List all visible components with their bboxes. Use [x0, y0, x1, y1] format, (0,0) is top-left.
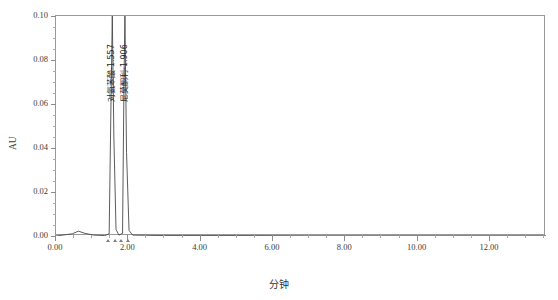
x-tick-label: 4.00 [180, 243, 220, 252]
y-tick-minor [53, 93, 56, 94]
x-tick-label: 6.00 [252, 243, 292, 252]
x-tick-major [489, 235, 490, 241]
x-tick-minor [182, 235, 183, 238]
chromatogram-trace [56, 16, 546, 236]
y-tick-minor [53, 71, 56, 72]
x-tick-minor [254, 235, 255, 238]
x-tick-minor [471, 235, 472, 238]
y-tick-minor [53, 27, 56, 28]
x-tick-label: 8.00 [324, 243, 364, 252]
x-tick-label: 2.00 [107, 243, 147, 252]
x-tick-major [200, 235, 201, 241]
y-tick-label: 0.00 [2, 231, 48, 240]
x-tick-minor [109, 235, 110, 238]
x-tick-major [272, 235, 273, 241]
y-tick-major [51, 104, 56, 105]
integration-marker [106, 239, 110, 242]
y-tick-major [51, 60, 56, 61]
peak-label: 尼莫酮利-1.906 [121, 44, 129, 102]
y-tick-label: 0.06 [2, 99, 48, 108]
y-tick-minor [53, 159, 56, 160]
x-tick-label: 12.00 [469, 243, 509, 252]
x-tick-minor [326, 235, 327, 238]
x-axis-title: 分钟 [0, 276, 558, 291]
x-tick-minor [362, 235, 363, 238]
y-tick-minor [53, 214, 56, 215]
peak-label: 对氨苯酸-1.557 [108, 44, 116, 102]
x-tick-minor [290, 235, 291, 238]
y-tick-minor [53, 170, 56, 171]
x-tick-major [344, 235, 345, 241]
y-tick-major [51, 16, 56, 17]
x-tick-minor [218, 235, 219, 238]
integration-marker [126, 239, 130, 242]
y-axis-title: AU [8, 136, 18, 150]
x-tick-label: 10.00 [397, 243, 437, 252]
x-tick-minor [435, 235, 436, 238]
x-axis-tick-labels: 0.002.004.006.008.0010.0012.00 [0, 243, 558, 257]
x-tick-major [55, 235, 56, 241]
x-tick-label: 0.00 [35, 243, 75, 252]
x-tick-minor [380, 235, 381, 238]
x-tick-minor [507, 235, 508, 238]
y-tick-major [51, 192, 56, 193]
x-tick-minor [163, 235, 164, 238]
y-tick-minor [53, 49, 56, 50]
y-tick-minor [53, 82, 56, 83]
y-tick-minor [53, 115, 56, 116]
integration-marker [113, 239, 117, 242]
x-tick-minor [91, 235, 92, 238]
y-tick-label: 0.02 [2, 187, 48, 196]
x-tick-minor [236, 235, 237, 238]
x-tick-minor [453, 235, 454, 238]
y-tick-minor [53, 137, 56, 138]
y-tick-major [51, 148, 56, 149]
x-tick-minor [543, 235, 544, 238]
detector-signal-line [56, 16, 546, 236]
x-tick-minor [525, 235, 526, 238]
x-tick-minor [399, 235, 400, 238]
y-tick-minor [53, 225, 56, 226]
x-tick-minor [308, 235, 309, 238]
x-tick-minor [73, 235, 74, 238]
x-tick-minor [145, 235, 146, 238]
integration-marker [119, 239, 123, 242]
y-tick-minor [53, 38, 56, 39]
y-tick-minor [53, 203, 56, 204]
y-tick-minor [53, 181, 56, 182]
y-tick-minor [53, 126, 56, 127]
y-tick-label: 0.10 [2, 11, 48, 20]
x-tick-major [417, 235, 418, 241]
y-tick-label: 0.08 [2, 55, 48, 64]
